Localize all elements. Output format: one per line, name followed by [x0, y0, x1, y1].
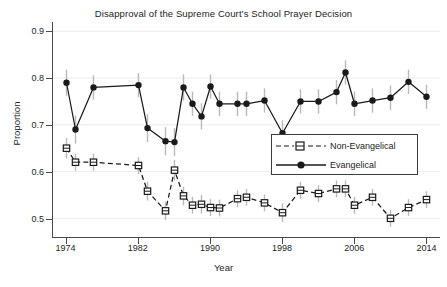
y-axis-title: Proportion — [11, 64, 22, 184]
x-tick-label: 2014 — [406, 243, 446, 253]
legend-label: Evangelical — [330, 160, 376, 170]
chart-figure: Disapproval of the Supreme Court’s Schoo… — [0, 0, 447, 287]
x-tick-label: 1982 — [118, 243, 158, 253]
x-axis-title: Year — [0, 262, 447, 273]
legend-item-non-evangelical: Non-Evangelical — [272, 136, 417, 156]
legend-key-dashed-square — [272, 137, 330, 155]
x-tick-label: 1990 — [190, 243, 230, 253]
y-tick-label: 0.9 — [16, 26, 44, 36]
x-tick-mark — [282, 238, 283, 244]
legend-item-evangelical: Evangelical — [272, 155, 417, 175]
x-tick-mark — [210, 238, 211, 244]
x-tick-mark — [138, 238, 139, 244]
x-tick-label: 2006 — [334, 243, 374, 253]
x-tick-label: 1998 — [262, 243, 302, 253]
legend-label: Non-Evangelical — [330, 141, 396, 151]
plot-area — [52, 22, 440, 238]
chart-legend: Non-Evangelical Evangelical — [271, 134, 418, 175]
series-canvas — [53, 22, 440, 237]
x-tick-mark — [354, 238, 355, 244]
y-tick-label: 0.5 — [16, 214, 44, 224]
legend-key-solid-circle — [272, 156, 330, 174]
x-tick-mark — [66, 238, 67, 244]
x-tick-mark — [426, 238, 427, 244]
x-tick-label: 1974 — [46, 243, 86, 253]
